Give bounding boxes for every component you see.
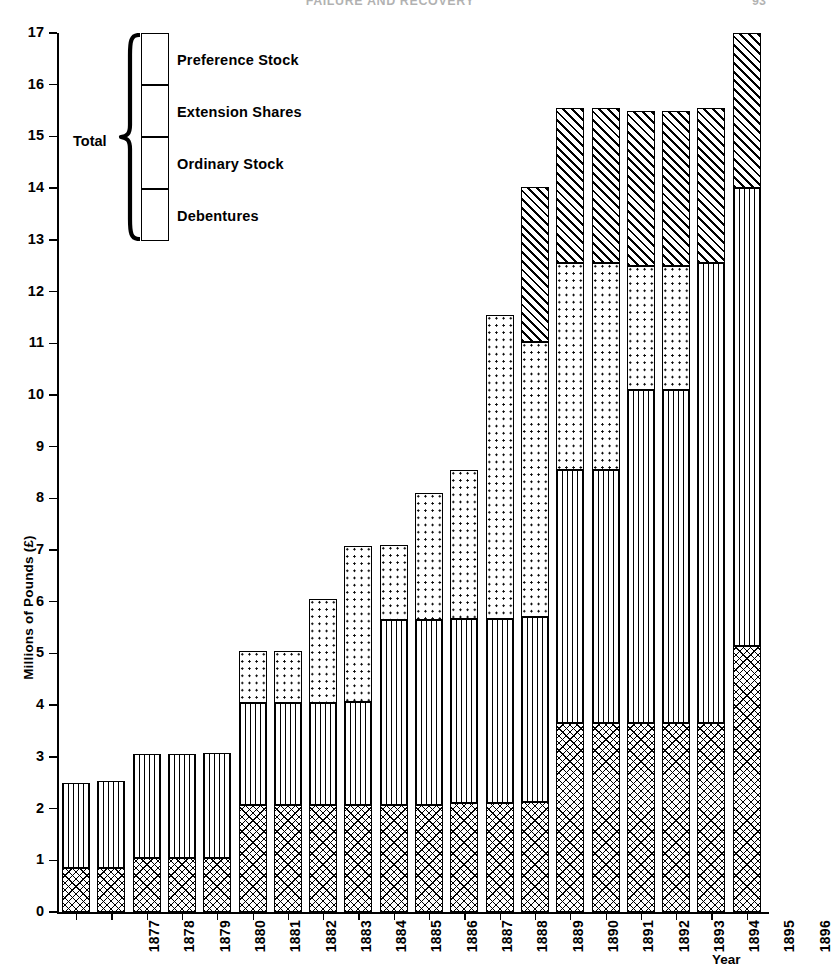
x-tick-label-1893: 1893 [711,920,727,977]
x-tick-mark [500,913,501,920]
y-tick-label: 11 [18,335,44,350]
bar-segment-extension [486,315,514,619]
bar-segment-ordinary [592,470,620,723]
x-tick-label-1877: 1877 [146,920,162,977]
x-tick-label-1880: 1880 [252,920,268,977]
x-tick-mark [111,913,112,920]
bar-1882[interactable] [239,651,267,912]
legend-brace-icon [118,33,140,241]
y-tick-mark [49,343,57,344]
legend-label-preference: Preference Stock [177,52,299,68]
bar-1886[interactable] [380,545,408,912]
x-tick-mark [676,913,677,920]
y-tick-mark [49,756,57,757]
x-tick-label-1895: 1895 [781,920,797,977]
bar-segment-extension [556,263,584,470]
bar-segment-extension [344,546,372,701]
bar-segment-debentures [662,723,690,912]
bar-1890[interactable] [521,187,549,912]
bar-1881[interactable] [203,753,231,912]
bar-segment-ordinary [415,620,443,805]
bar-segment-ordinary [203,753,231,857]
x-tick-mark [711,913,712,920]
bar-1878[interactable] [97,781,125,912]
bar-1883[interactable] [274,651,302,912]
bar-1888[interactable] [450,470,478,912]
x-tick-label-1881: 1881 [287,920,303,977]
x-tick-mark [358,913,359,920]
bar-segment-extension [309,599,337,702]
bar-1884[interactable] [309,599,337,912]
bar-segment-extension [274,651,302,703]
bar-segment-preference [627,111,655,266]
y-tick-mark [49,549,57,550]
y-tick-label: 12 [18,284,44,299]
x-tick-label-1890: 1890 [605,920,621,977]
x-axis-line [57,912,769,914]
bar-segment-debentures [627,723,655,912]
y-tick-label: 2 [18,801,44,816]
bar-1879[interactable] [133,754,161,912]
bar-segment-debentures [274,805,302,912]
bar-segment-debentures [344,805,372,912]
bar-1891[interactable] [556,108,584,912]
bar-segment-ordinary [239,703,267,805]
legend-swatch-extension [141,85,169,137]
bar-1896[interactable] [733,33,761,912]
x-tick-mark [217,913,218,920]
y-axis-title: Millions of Pounds (£) [21,488,36,728]
bar-1889[interactable] [486,315,514,912]
y-tick-label: 10 [18,387,44,402]
bar-1894[interactable] [662,111,690,912]
x-tick-label-1891: 1891 [640,920,656,977]
bar-1885[interactable] [344,546,372,912]
x-tick-mark [535,913,536,920]
x-tick-mark [464,913,465,920]
bar-segment-extension [662,266,690,390]
bar-segment-extension [415,493,443,620]
y-tick-label: 15 [18,128,44,143]
y-tick-label: 16 [18,77,44,92]
bar-segment-ordinary [662,390,690,724]
bar-segment-ordinary [486,619,514,804]
bar-1880[interactable] [168,754,196,912]
x-tick-label-1886: 1886 [464,920,480,977]
bar-1887[interactable] [415,493,443,912]
bar-segment-ordinary [521,617,549,802]
x-tick-label-1896: 1896 [817,920,833,977]
y-tick-mark [49,32,57,33]
bar-segment-preference [733,33,761,188]
bar-segment-debentures [380,805,408,912]
bar-segment-ordinary [133,754,161,857]
bar-1893[interactable] [627,111,655,912]
x-tick-mark [76,913,77,920]
y-tick-mark [49,394,57,395]
bar-segment-debentures [97,868,125,912]
y-tick-mark [49,498,57,499]
bar-1892[interactable] [592,108,620,912]
y-tick-label: 9 [18,439,44,454]
legend-label-ordinary: Ordinary Stock [177,156,284,172]
bar-segment-preference [556,108,584,263]
y-tick-mark [49,860,57,861]
y-tick-mark [49,601,57,602]
legend-label-debentures: Debentures [177,208,259,224]
x-tick-mark [641,913,642,920]
bar-segment-ordinary [450,619,478,804]
x-tick-mark [747,913,748,920]
bar-segment-debentures [521,802,549,912]
bar-1895[interactable] [697,108,725,912]
y-tick-label: 13 [18,232,44,247]
bar-1877[interactable] [62,783,90,912]
bar-segment-debentures [450,803,478,912]
legend-swatch-preference [141,33,169,85]
y-tick-mark [49,84,57,85]
x-tick-mark [606,913,607,920]
y-tick-mark [49,136,57,137]
bar-segment-ordinary [274,703,302,805]
y-tick-label: 1 [18,852,44,867]
x-tick-label-1878: 1878 [181,920,197,977]
bar-segment-ordinary [556,470,584,723]
